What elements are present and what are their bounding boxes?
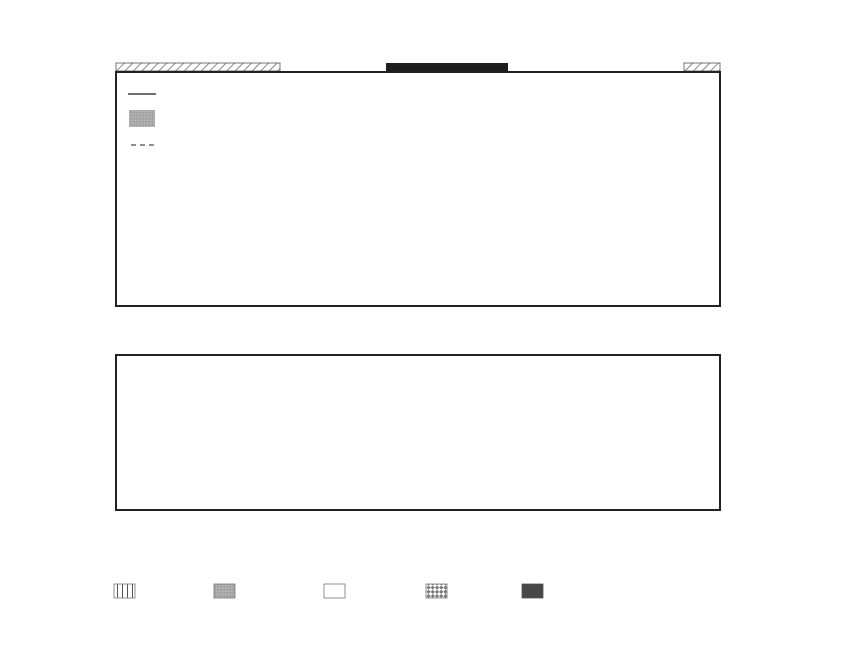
ice-left-bar — [116, 63, 280, 71]
bottom-legend — [114, 584, 543, 598]
legend-cryptophyta-swatch — [426, 584, 447, 598]
top-plot-frame — [116, 72, 720, 306]
stratified-period-bar — [386, 63, 508, 72]
top-legend — [128, 94, 156, 145]
period-bars — [116, 63, 720, 72]
top-panel — [116, 72, 720, 306]
bottom-panel — [116, 355, 720, 510]
bottom-plot-frame — [116, 355, 720, 510]
figure — [0, 0, 844, 649]
legend-micro-biomass-swatch — [129, 110, 155, 127]
legend-chlorophyta-swatch — [114, 584, 135, 598]
legend-chrysophyta-swatch — [324, 584, 345, 598]
legend-bacillariophyta-swatch — [214, 584, 235, 598]
ice-right-bar — [684, 63, 720, 71]
legend-pyrrophyta-swatch — [522, 584, 543, 598]
